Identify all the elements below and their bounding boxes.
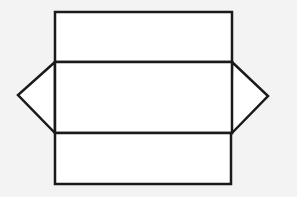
top-rectangle-face — [55, 12, 232, 62]
prism-net-diagram — [0, 0, 297, 197]
diagram-svg — [0, 0, 297, 197]
left-triangle-face — [18, 62, 55, 133]
middle-rectangle-face — [55, 62, 232, 133]
bottom-rectangle-face — [55, 133, 231, 184]
right-triangle-face — [231, 62, 268, 134]
